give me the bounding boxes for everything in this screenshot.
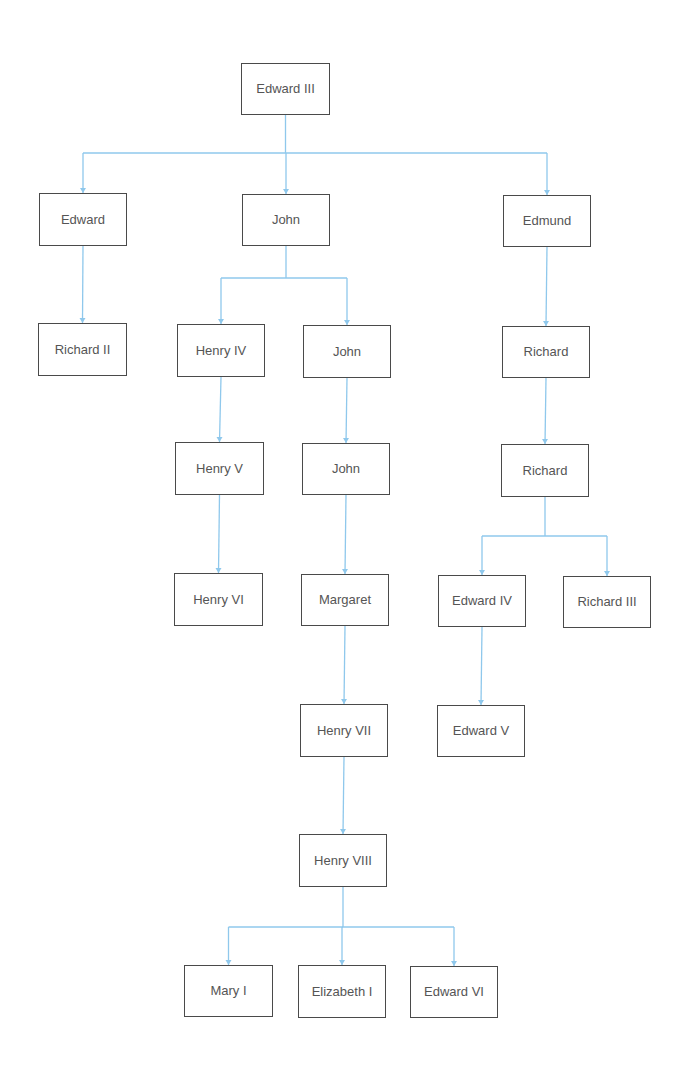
node-label: Edward IV xyxy=(452,593,512,609)
node-edward-iii: Edward III xyxy=(241,63,330,115)
node-henry-iv: Henry IV xyxy=(177,324,265,377)
connector-line xyxy=(545,378,546,444)
connector-line xyxy=(481,627,482,705)
node-label: Henry VIII xyxy=(314,853,372,869)
node-label: Henry VII xyxy=(317,723,371,739)
node-label: Henry VI xyxy=(193,592,244,608)
connector-line xyxy=(346,378,347,443)
node-henry-v: Henry V xyxy=(175,442,264,495)
connector-line xyxy=(546,247,547,326)
node-edward-iv: Edward IV xyxy=(438,575,526,627)
connector-line xyxy=(344,626,345,704)
node-edmund: Edmund xyxy=(503,195,591,247)
node-edward-vi: Edward VI xyxy=(410,966,498,1018)
connector-line xyxy=(83,246,84,323)
node-label: Richard III xyxy=(577,594,636,610)
node-label: Edward VI xyxy=(424,984,484,1000)
node-label: Edward V xyxy=(453,723,509,739)
node-margaret: Margaret xyxy=(301,574,389,626)
node-label: Henry IV xyxy=(196,343,247,359)
node-john-3: John xyxy=(302,443,390,495)
node-label: Mary I xyxy=(210,983,246,999)
node-label: Richard xyxy=(523,463,568,479)
node-henry-vi: Henry VI xyxy=(174,573,263,626)
node-label: John xyxy=(272,212,300,228)
node-label: John xyxy=(333,344,361,360)
node-richard-iii: Richard III xyxy=(563,576,651,628)
node-label: Richard xyxy=(524,344,569,360)
node-john-2: John xyxy=(303,325,391,378)
node-label: Elizabeth I xyxy=(312,984,373,1000)
node-edward: Edward xyxy=(39,193,127,246)
node-richard-ii: Richard II xyxy=(38,323,127,376)
node-mary-i: Mary I xyxy=(184,965,273,1017)
node-label: Edmund xyxy=(523,213,571,229)
node-label: Richard II xyxy=(55,342,111,358)
node-richard-2: Richard xyxy=(501,444,589,497)
node-henry-viii: Henry VIII xyxy=(299,834,387,887)
node-john-1: John xyxy=(242,194,330,246)
connector-line xyxy=(220,377,222,442)
node-edward-v: Edward V xyxy=(437,705,525,757)
node-label: John xyxy=(332,461,360,477)
family-tree-diagram: Edward IIIEdwardJohnEdmundRichard IIHenr… xyxy=(0,0,689,1070)
node-label: Margaret xyxy=(319,592,371,608)
connector-lines xyxy=(0,0,689,1070)
node-henry-vii: Henry VII xyxy=(300,704,388,757)
node-label: Edward III xyxy=(256,81,315,97)
connector-line xyxy=(219,495,220,573)
node-richard-1: Richard xyxy=(502,326,590,378)
node-elizabeth-i: Elizabeth I xyxy=(298,965,386,1018)
node-label: Henry V xyxy=(196,461,243,477)
connector-line xyxy=(343,757,344,834)
node-label: Edward xyxy=(61,212,105,228)
connector-line xyxy=(345,495,346,574)
